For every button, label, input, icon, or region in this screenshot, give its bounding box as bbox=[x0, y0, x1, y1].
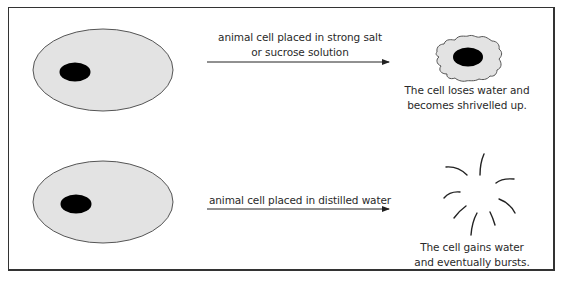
arrow-label-distilled-water: animal cell placed in distilled water bbox=[200, 193, 400, 208]
caption-line-1: The cell loses water and bbox=[397, 83, 537, 98]
normal-animal-cell-top bbox=[33, 29, 173, 111]
arrow-label-line-1: animal cell placed in distilled water bbox=[200, 193, 400, 208]
caption-line-1: The cell gains water bbox=[402, 240, 542, 255]
normal-animal-cell-bottom bbox=[33, 161, 173, 243]
burst-cell-fragments-icon bbox=[444, 154, 515, 235]
nucleus-icon bbox=[60, 63, 91, 82]
arrow-label-salt-solution: animal cell placed in strong salt or suc… bbox=[200, 30, 400, 60]
caption-line-2: and eventually bursts. bbox=[402, 255, 542, 270]
nucleus-icon bbox=[453, 48, 483, 67]
arrow-label-line-1: animal cell placed in strong salt bbox=[200, 30, 400, 45]
caption-burst: The cell gains water and eventually burs… bbox=[402, 240, 542, 270]
caption-line-2: becomes shrivelled up. bbox=[397, 98, 537, 113]
nucleus-icon bbox=[61, 195, 92, 214]
arrow-label-line-2: or sucrose solution bbox=[200, 45, 400, 60]
caption-shrivelled: The cell loses water and becomes shrivel… bbox=[397, 83, 537, 113]
shrivelled-cell bbox=[436, 35, 502, 81]
